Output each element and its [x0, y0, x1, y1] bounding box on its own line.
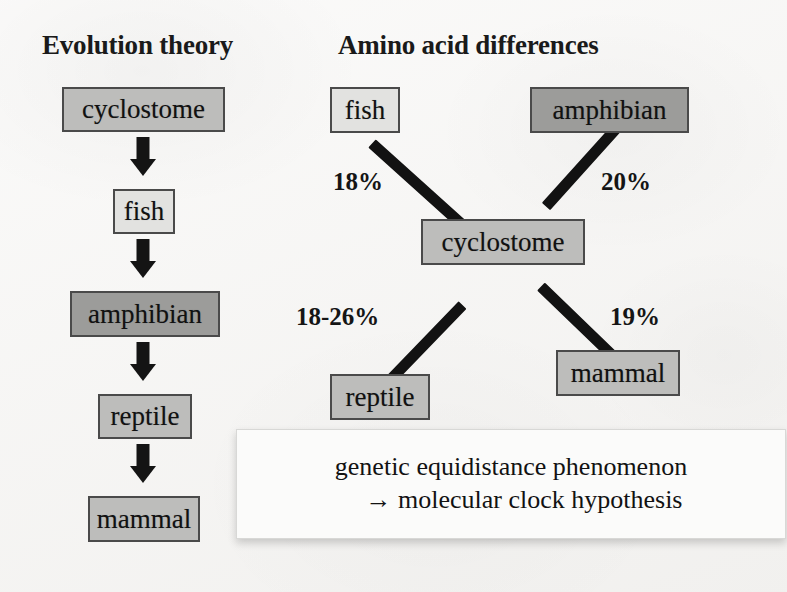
figure-canvas: Evolution theory cyclostome fish amphibi…: [0, 0, 787, 592]
right-panel-heading: Amino acid differences: [338, 30, 599, 61]
right-node-amphibian-label: amphibian: [553, 97, 667, 124]
right-node-reptile[interactable]: reptile: [330, 374, 430, 420]
left-node-reptile[interactable]: reptile: [98, 394, 192, 439]
edge-label-reptile: 18-26%: [296, 303, 379, 331]
left-node-fish-label: fish: [124, 198, 165, 225]
right-node-mammal[interactable]: mammal: [556, 350, 680, 396]
right-node-fish-label: fish: [345, 97, 386, 124]
left-node-reptile-label: reptile: [111, 403, 180, 430]
left-node-amphibian[interactable]: amphibian: [70, 291, 220, 337]
caption-box: genetic equidistance phenomenon → molecu…: [236, 429, 786, 539]
left-node-mammal-label: mammal: [97, 506, 191, 533]
right-node-mammal-label: mammal: [571, 360, 665, 387]
caption-line-2: → molecular clock hypothesis: [340, 484, 683, 517]
left-node-mammal[interactable]: mammal: [88, 496, 200, 542]
edge-label-amphibian: 20%: [601, 168, 651, 196]
right-node-fish[interactable]: fish: [330, 87, 400, 133]
edge-label-mammal: 19%: [610, 303, 660, 331]
edge-label-fish: 18%: [333, 168, 383, 196]
right-node-reptile-label: reptile: [346, 384, 415, 411]
right-node-cyclostome-label: cyclostome: [442, 229, 565, 256]
left-panel-heading: Evolution theory: [42, 30, 233, 61]
right-node-amphibian[interactable]: amphibian: [530, 87, 689, 133]
left-node-cyclostome-label: cyclostome: [82, 96, 205, 123]
left-node-cyclostome[interactable]: cyclostome: [62, 87, 225, 132]
caption-line-1: genetic equidistance phenomenon: [335, 451, 687, 484]
left-node-amphibian-label: amphibian: [88, 301, 202, 328]
left-node-fish[interactable]: fish: [113, 189, 175, 234]
right-node-cyclostome-center[interactable]: cyclostome: [421, 219, 585, 265]
